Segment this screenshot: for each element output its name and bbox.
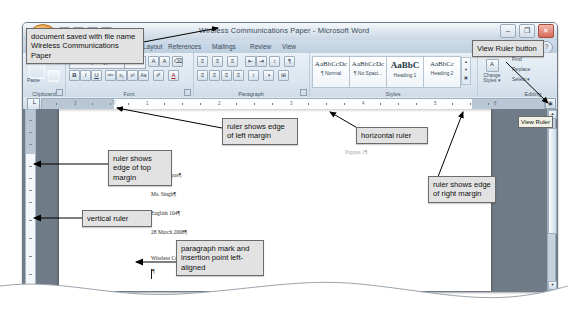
callout-right-margin: ruler shows edge of right margin <box>428 176 496 203</box>
callout-document-saved: document saved with file name Wireless C… <box>26 28 144 64</box>
callout-view-ruler-button: View Ruler button <box>472 40 544 57</box>
callout-horizontal-ruler: horizontal ruler <box>356 127 428 144</box>
callout-top-margin: ruler shows edge of top margin <box>108 150 172 186</box>
screenshot-stage: Wireless Communications Paper - Microsof… <box>0 0 568 310</box>
callout-paragraph-mark: paragraph mark and insertion point left-… <box>176 240 264 276</box>
callout-left-margin: ruler shows edge of left margin <box>222 118 298 145</box>
view-ruler-tooltip: View Ruler <box>518 116 553 128</box>
torn-page-edge <box>0 276 568 310</box>
callout-vertical-ruler: vertical ruler <box>82 210 152 227</box>
